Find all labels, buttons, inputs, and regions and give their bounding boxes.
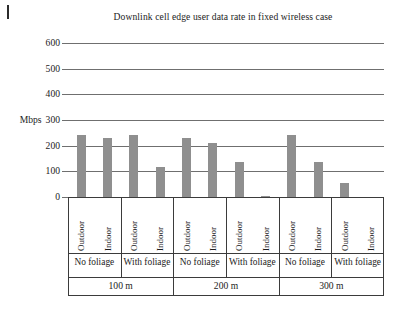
bar (77, 135, 86, 197)
y-tick-value: 100 (46, 165, 60, 176)
bar (129, 135, 138, 197)
category-label-placement: Outdoor (129, 201, 139, 251)
category-label-distance: 300 m (279, 280, 384, 291)
cat-row2-border (68, 277, 384, 278)
gridline-300 (68, 120, 384, 121)
y-tick-600: 600 (0, 38, 60, 48)
category-label-placement: Indoor (103, 201, 113, 251)
bar (235, 162, 244, 197)
category-label-placement: Indoor (208, 201, 218, 251)
gridline-500 (68, 69, 384, 70)
category-label-placement: Indoor (313, 201, 323, 251)
gridline-100 (68, 171, 384, 172)
category-axis-table: OutdoorIndoorOutdoorIndoorOutdoorIndoorO… (68, 197, 384, 295)
gridline-600 (68, 43, 384, 44)
category-label-placement: Outdoor (76, 201, 86, 251)
category-label-foliage: No foliage (68, 257, 121, 268)
plot-area (68, 43, 384, 197)
y-tick-value: 500 (46, 63, 60, 74)
category-label-placement: Indoor (155, 201, 165, 251)
bar (314, 162, 323, 197)
category-label-distance: 200 m (173, 280, 278, 291)
category-label-foliage: With foliage (121, 257, 174, 268)
y-tick-400: 400 (0, 89, 60, 99)
category-label-placement: Indoor (261, 201, 271, 251)
category-label-distance: 100 m (68, 280, 173, 291)
category-label-placement: Outdoor (234, 201, 244, 251)
category-label-foliage: No foliage (173, 257, 226, 268)
y-tick-value: 200 (46, 140, 60, 151)
y-tick-value: 600 (46, 37, 60, 48)
gridline-200 (68, 146, 384, 147)
y-tick-100: 100 (0, 166, 60, 176)
gridline-400 (68, 94, 384, 95)
y-axis-unit-label: Mbps (20, 114, 42, 125)
y-tick-value: 400 (46, 88, 60, 99)
y-tick-value: 0 (55, 191, 60, 202)
y-tick-200: 200 (0, 141, 60, 151)
y-tick-500: 500 (0, 64, 60, 74)
category-label-foliage: With foliage (331, 257, 384, 268)
category-label-placement: Outdoor (287, 201, 297, 251)
y-tick-value: 300 (46, 114, 60, 125)
category-label-placement: Outdoor (340, 201, 350, 251)
bar (182, 138, 191, 197)
bar (208, 143, 217, 197)
bar (156, 167, 165, 197)
bar (103, 138, 112, 197)
chart-title: Downlink cell edge user data rate in fix… (78, 11, 368, 23)
cat-bottom-border (68, 295, 384, 296)
figure-bar-chart: Downlink cell edge user data rate in fix… (0, 0, 411, 315)
category-label-placement: Outdoor (182, 201, 192, 251)
y-tick-300: Mbps300 (0, 115, 60, 125)
y-tick-0: 0 (0, 192, 60, 202)
bar (340, 183, 349, 197)
category-label-foliage: No foliage (279, 257, 332, 268)
category-label-placement: Indoor (366, 201, 376, 251)
category-label-foliage: With foliage (226, 257, 279, 268)
bar (287, 135, 296, 197)
y-axis-tick-labels: 600500400Mbps3002001000 (0, 0, 66, 315)
